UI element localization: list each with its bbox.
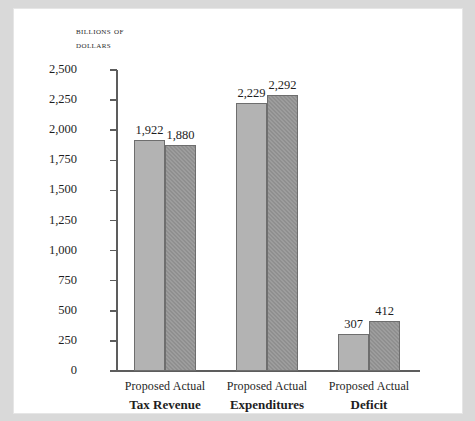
y-tick-label: 1,750 xyxy=(17,152,77,167)
category-group-tax-revenue: Proposed ActualTax Revenue xyxy=(116,376,214,413)
bar-value-label: 412 xyxy=(360,304,409,319)
category-name: Deficit xyxy=(320,397,418,413)
bar-value-label: 2,292 xyxy=(258,78,307,93)
bars-area: 1,9221,8802,2292,292307412 xyxy=(116,70,420,371)
category-series-labels: Proposed Actual xyxy=(227,379,308,393)
bar-expenditures-proposed xyxy=(236,103,267,371)
y-tick-label: 2,500 xyxy=(17,62,77,77)
bar-value-label: 1,880 xyxy=(156,128,205,143)
y-tick-label: 250 xyxy=(17,333,77,348)
y-tick-label: 1,250 xyxy=(17,213,77,228)
category-series-labels: Proposed Actual xyxy=(125,379,206,393)
category-series-labels: Proposed Actual xyxy=(329,379,410,393)
bar-deficit-actual xyxy=(369,321,400,371)
category-group-deficit: Proposed ActualDeficit xyxy=(320,376,418,413)
bar-deficit-proposed xyxy=(338,334,369,371)
bar-expenditures-actual xyxy=(267,95,298,371)
y-tick-label: 500 xyxy=(17,303,77,318)
y-axis-title-line1: Billions of xyxy=(76,24,226,38)
bar-chart: Billions of dollars 02505007501,0001,250… xyxy=(14,9,462,413)
category-group-expenditures: Proposed ActualExpenditures xyxy=(218,376,316,413)
y-tick-label: 1,000 xyxy=(17,243,77,258)
bar-tax-revenue-actual xyxy=(165,145,196,371)
y-axis-title: Billions of dollars xyxy=(76,24,226,52)
y-tick-label: 2,250 xyxy=(17,92,77,107)
y-tick-label: 750 xyxy=(17,273,77,288)
y-axis-title-line2: dollars xyxy=(76,38,226,52)
y-tick-label: 2,000 xyxy=(17,122,77,137)
y-tick-label: 1,500 xyxy=(17,182,77,197)
chart-page: Billions of dollars 02505007501,0001,250… xyxy=(14,9,462,413)
screenshot-frame: Billions of dollars 02505007501,0001,250… xyxy=(0,0,475,421)
category-name: Expenditures xyxy=(218,397,316,413)
bar-tax-revenue-proposed xyxy=(134,140,165,371)
category-name: Tax Revenue xyxy=(116,397,214,413)
y-tick-label: 0 xyxy=(17,363,77,378)
